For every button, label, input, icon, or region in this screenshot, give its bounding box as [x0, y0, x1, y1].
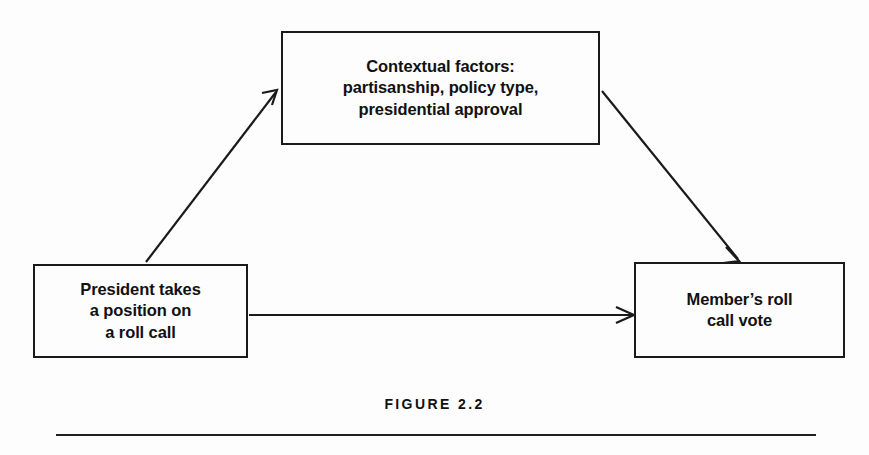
node-member-roll-call-vote: Member’s roll call vote: [634, 262, 845, 358]
arrow-president-to-context: [146, 90, 277, 262]
node-president-position-label: President takes a position on a roll cal…: [74, 279, 206, 343]
node-contextual-factors-label: Contextual factors: partisanship, policy…: [337, 56, 544, 120]
figure-caption: FIGURE 2.2: [0, 396, 869, 412]
arrow-context-to-member: [602, 91, 739, 263]
arrow-president-to-member: [249, 307, 634, 323]
node-contextual-factors: Contextual factors: partisanship, policy…: [281, 31, 600, 145]
figure-container: Contextual factors: partisanship, policy…: [0, 0, 869, 455]
node-president-position: President takes a position on a roll cal…: [33, 264, 248, 358]
node-member-roll-call-vote-label: Member’s roll call vote: [681, 289, 799, 332]
horizontal-divider: [56, 434, 816, 436]
